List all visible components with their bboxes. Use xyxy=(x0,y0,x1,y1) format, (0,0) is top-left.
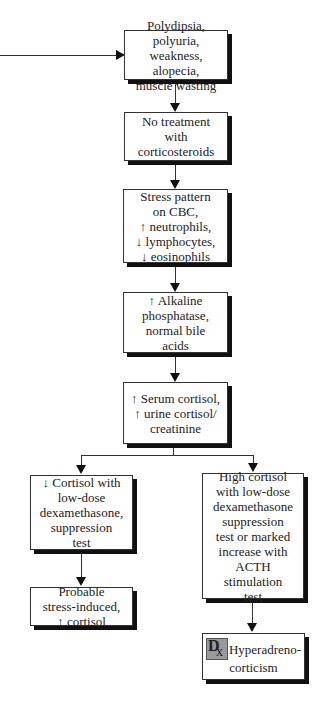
connector-8-9 xyxy=(252,603,253,624)
connector-3-4 xyxy=(175,267,176,284)
arrow-down-icon xyxy=(170,103,180,112)
node-diagnosis-hyperadrenocorticism: D x Hyperadreno- corticism xyxy=(202,633,305,680)
node-stress-pattern-text: Stress pattern on CBC, ↑ neutrophils, ↓ … xyxy=(136,189,215,264)
connector-6-7 xyxy=(81,554,82,578)
node-cortisol-suppressed-text: ↓ Cortisol with low-dose dexamethasone, … xyxy=(40,475,123,550)
node-no-treatment: No treatment with corticosteroids xyxy=(124,112,228,161)
arrow-down-icon xyxy=(170,283,180,292)
node-no-treatment-text: No treatment with corticosteroids xyxy=(138,114,215,159)
node-stress-pattern: Stress pattern on CBC, ↑ neutrophils, ↓ … xyxy=(123,189,228,263)
connector-1-2 xyxy=(175,84,176,104)
node-symptoms: Polydipsia, polyuria, weakness, alopecia… xyxy=(124,30,228,80)
node-serum-cortisol: ↑ Serum cortisol, ↑ urine cortisol/ crea… xyxy=(123,382,228,444)
incoming-connector xyxy=(0,55,116,56)
arrow-down-icon xyxy=(170,373,180,382)
node-stress-induced-text: Probable stress-induced, ↑ cortisol xyxy=(43,584,121,629)
node-symptoms-text: Polydipsia, polyuria, weakness, alopecia… xyxy=(128,18,224,93)
node-cortisol-suppressed: ↓ Cortisol with low-dose dexamethasone, … xyxy=(30,475,133,550)
branch-horizontal xyxy=(81,455,253,456)
arrow-down-icon xyxy=(76,465,86,474)
diagnosis-text-line2: corticism xyxy=(229,660,277,675)
node-alkaline-phosphatase: ↑ Alkaline phosphatase, normal bile acid… xyxy=(123,292,228,353)
node-high-cortisol-text: High cortisol with low-dose dexamethason… xyxy=(206,469,300,604)
node-serum-cortisol-text: ↑ Serum cortisol, ↑ urine cortisol/ crea… xyxy=(131,391,220,436)
node-stress-induced: Probable stress-induced, ↑ cortisol xyxy=(30,587,133,626)
connector-4-5 xyxy=(175,357,176,374)
diagnosis-text-line1: Hyperadreno- xyxy=(229,642,301,657)
arrow-down-icon xyxy=(247,623,257,632)
connector-2-3 xyxy=(175,165,176,181)
node-high-cortisol: High cortisol with low-dose dexamethason… xyxy=(202,473,304,599)
branch-left-drop xyxy=(81,455,82,465)
node-alkaline-phosphatase-text: ↑ Alkaline phosphatase, normal bile acid… xyxy=(142,293,209,353)
dx-diagnosis-icon: D x xyxy=(206,638,228,660)
diagnosis-row: D x Hyperadreno- xyxy=(206,638,301,660)
